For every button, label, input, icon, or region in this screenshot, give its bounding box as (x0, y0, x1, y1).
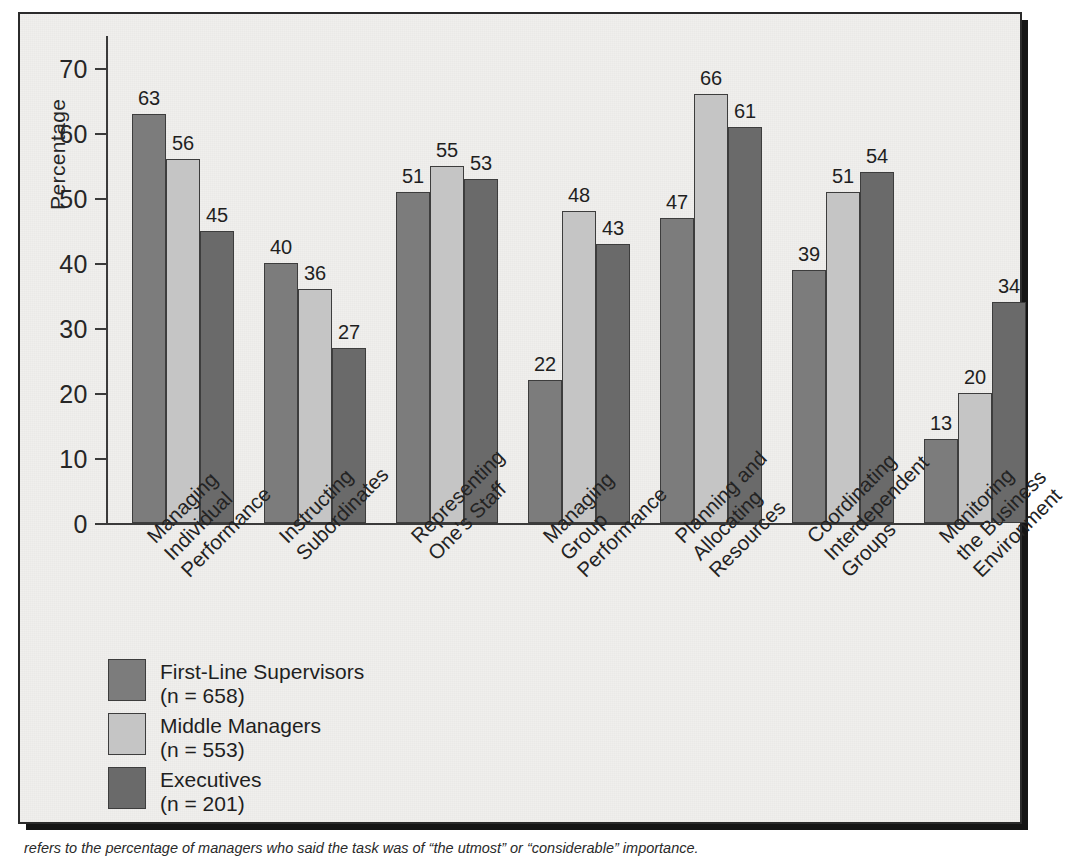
bar-value-label: 40 (270, 236, 292, 259)
bar-value-label: 34 (998, 275, 1020, 298)
x-axis-category-labels: ManagingIndividualPerformanceInstructing… (106, 525, 998, 675)
legend-series-count: (n = 201) (160, 792, 262, 816)
legend-label: Executives(n = 201) (160, 767, 262, 815)
bar-value-label: 45 (206, 204, 228, 227)
bar-value-label: 36 (304, 262, 326, 285)
bar-value-label: 39 (798, 243, 820, 266)
bar-value-label: 13 (930, 412, 952, 435)
bar: 55 (430, 166, 464, 523)
bar-value-label: 55 (436, 139, 458, 162)
legend-item: Middle Managers(n = 553) (108, 713, 364, 761)
chart-legend: First-Line Supervisors(n = 658)Middle Ma… (108, 659, 364, 821)
bar-value-label: 61 (734, 100, 756, 123)
legend-item: First-Line Supervisors(n = 658) (108, 659, 364, 707)
bar: 51 (826, 192, 860, 523)
legend-series-name: Middle Managers (160, 714, 321, 738)
legend-series-count: (n = 553) (160, 738, 321, 762)
legend-color-swatch (108, 659, 146, 701)
bar-value-label: 27 (338, 321, 360, 344)
y-tick-label-30: 30 (59, 315, 88, 344)
y-tick-70: 70 (95, 68, 106, 70)
bar-value-label: 47 (666, 191, 688, 214)
bar-value-label: 63 (138, 87, 160, 110)
legend-series-name: First-Line Supervisors (160, 660, 364, 684)
legend-item: Executives(n = 201) (108, 767, 364, 815)
figure-frame: 010203040506070 635645403627515553224843… (18, 12, 1022, 824)
legend-series-count: (n = 658) (160, 684, 364, 708)
y-tick-label-70: 70 (59, 55, 88, 84)
bar-value-label: 48 (568, 184, 590, 207)
y-tick-20: 20 (95, 393, 106, 395)
y-tick-60: 60 (95, 133, 106, 135)
legend-series-name: Executives (160, 768, 262, 792)
bar-value-label: 66 (700, 67, 722, 90)
legend-color-swatch (108, 713, 146, 755)
y-tick-label-10: 10 (59, 445, 88, 474)
bar-value-label: 56 (172, 132, 194, 155)
bar-value-label: 51 (832, 165, 854, 188)
bar: 66 (694, 94, 728, 523)
bar-value-label: 53 (470, 152, 492, 175)
y-tick-30: 30 (95, 328, 106, 330)
y-tick-10: 10 (95, 458, 106, 460)
bar: 63 (132, 114, 166, 523)
bar-value-label: 20 (964, 366, 986, 389)
y-axis-title: Percentage (46, 99, 70, 210)
y-tick-0: 0 (95, 523, 106, 525)
bar-value-label: 22 (534, 353, 556, 376)
legend-color-swatch (108, 767, 146, 809)
y-tick-50: 50 (95, 198, 106, 200)
bar-value-label: 51 (402, 165, 424, 188)
legend-label: First-Line Supervisors(n = 658) (160, 659, 364, 707)
bar: 40 (264, 263, 298, 523)
bar: 51 (396, 192, 430, 523)
figure-caption: refers to the percentage of managers who… (24, 840, 1014, 856)
y-tick-label-40: 40 (59, 250, 88, 279)
y-tick-label-0: 0 (74, 510, 88, 539)
bar: 22 (528, 380, 562, 523)
bars-layer: 6356454036275155532248434766613951541320… (108, 36, 984, 523)
bar: 39 (792, 270, 826, 523)
bar-value-label: 43 (602, 217, 624, 240)
y-tick-label-20: 20 (59, 380, 88, 409)
bar: 47 (660, 218, 694, 523)
plot-area: 010203040506070 635645403627515553224843… (106, 22, 998, 525)
bar: 56 (166, 159, 200, 523)
legend-label: Middle Managers(n = 553) (160, 713, 321, 761)
bar-value-label: 54 (866, 145, 888, 168)
y-tick-40: 40 (95, 263, 106, 265)
